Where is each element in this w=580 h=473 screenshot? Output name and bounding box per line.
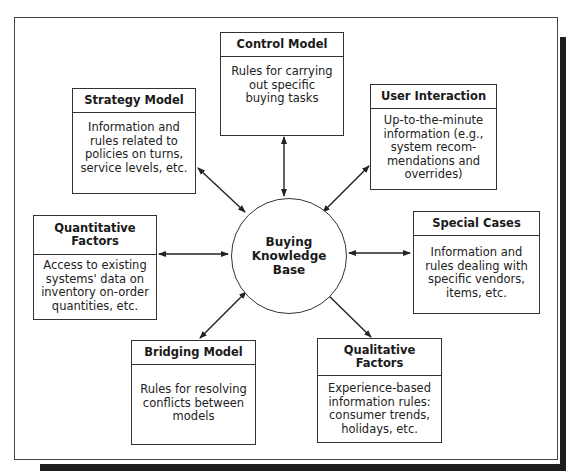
node-title: Bridging Model [132, 341, 255, 365]
buying-knowledge-base-node: Buying Knowledge Base [231, 198, 347, 314]
node-description: Information and rules dealing with speci… [414, 236, 539, 304]
node-user-interaction: User Interaction Up-to-the-minute inform… [370, 84, 497, 190]
node-quantitative-factors: Quantitative Factors Access to existing … [33, 215, 157, 320]
node-description: Information and rules related to policie… [73, 113, 195, 179]
node-title: Quantitative Factors [34, 216, 156, 255]
node-qualitative-factors: Qualitative Factors Experience-based inf… [317, 338, 442, 443]
node-title: Special Cases [414, 212, 539, 236]
node-title: Control Model [221, 33, 343, 57]
node-description: Up-to-the-minute information (e.g., syst… [371, 109, 496, 186]
node-description: Experience-based information rules: cons… [318, 376, 441, 440]
node-control-model: Control Model Rules for carrying out spe… [220, 32, 344, 136]
node-bridging-model: Bridging Model Rules for resolving confl… [131, 340, 256, 445]
node-description: Access to existing systems' data on inve… [34, 255, 156, 317]
frame-shadow-bottom [40, 464, 566, 471]
center-label: Buying Knowledge Base [244, 235, 334, 277]
node-title: Qualitative Factors [318, 339, 441, 376]
frame-shadow-right [560, 37, 566, 471]
node-title: User Interaction [371, 85, 496, 109]
node-title: Strategy Model [73, 89, 195, 113]
node-description: Rules for resolving conflicts between mo… [132, 365, 255, 428]
node-special-cases: Special Cases Information and rules deal… [413, 211, 540, 314]
node-strategy-model: Strategy Model Information and rules rel… [72, 88, 196, 194]
node-description: Rules for carrying out specific buying t… [221, 57, 343, 110]
